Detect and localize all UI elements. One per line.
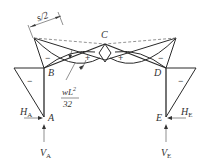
arrow-left-icon [167, 116, 172, 120]
node-label-b: B [48, 67, 54, 78]
node-label-e: E [155, 112, 162, 123]
moment-value-annotation: wL2 32 [61, 50, 86, 109]
sign-left-column: − [27, 76, 32, 86]
arrow-up-icon [164, 124, 168, 129]
moment-denominator: 32 [62, 99, 73, 109]
portal-frame-moment-diagram: s/2 wL2 32 [0, 0, 210, 164]
moment-numerator: wL2 [62, 86, 76, 97]
reaction-ha: HA [19, 106, 43, 120]
node-label-a: A [47, 112, 55, 123]
reaction-he: HE [167, 106, 193, 120]
svg-text:VE: VE [161, 147, 171, 160]
svg-text:VA: VA [40, 147, 51, 160]
sign-left-rafter-pos: + [85, 53, 90, 63]
arrow-right-icon [38, 116, 43, 120]
dimension-s-half: s/2 [28, 9, 63, 38]
sign-right-rafter-pos: + [118, 53, 123, 63]
sign-right-rafter-neg: − [158, 53, 163, 63]
svg-text:HE: HE [180, 106, 193, 119]
reaction-ve: VE [161, 124, 171, 160]
dimension-label: s/2 [35, 9, 50, 23]
sign-left-rafter-neg: − [45, 53, 50, 63]
node-label-c: C [101, 29, 108, 40]
node-label-d: D [153, 67, 162, 78]
arrow-up-icon [42, 124, 46, 129]
sign-right-column: − [178, 76, 183, 86]
reaction-va: VA [40, 124, 51, 160]
svg-text:HA: HA [19, 106, 32, 119]
